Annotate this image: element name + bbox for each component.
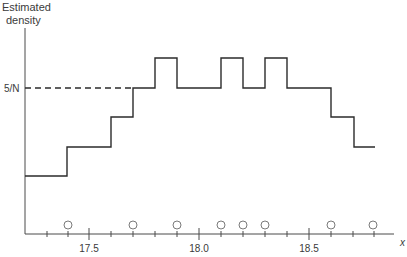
- data-point: [327, 221, 335, 229]
- x-axis-title: x: [399, 237, 406, 248]
- y-axis-title-line2: density: [6, 14, 41, 26]
- data-point: [129, 221, 137, 229]
- y-axis-title-line1: Estimated: [2, 1, 51, 13]
- y-reference-label: 5/N: [4, 83, 20, 94]
- data-point-markers: [64, 221, 377, 229]
- data-point: [239, 221, 247, 229]
- data-point: [369, 221, 377, 229]
- density-step-line: [25, 58, 375, 176]
- density-chart: Estimated density 5/N 17.5 18.0 18.5 x: [0, 0, 407, 257]
- x-tick-label-17-5: 17.5: [79, 243, 99, 254]
- data-point: [217, 221, 225, 229]
- data-point: [64, 221, 72, 229]
- data-point: [261, 221, 269, 229]
- x-tick-label-18-0: 18.0: [189, 243, 209, 254]
- data-point: [173, 221, 181, 229]
- x-tick-label-18-5: 18.5: [299, 243, 319, 254]
